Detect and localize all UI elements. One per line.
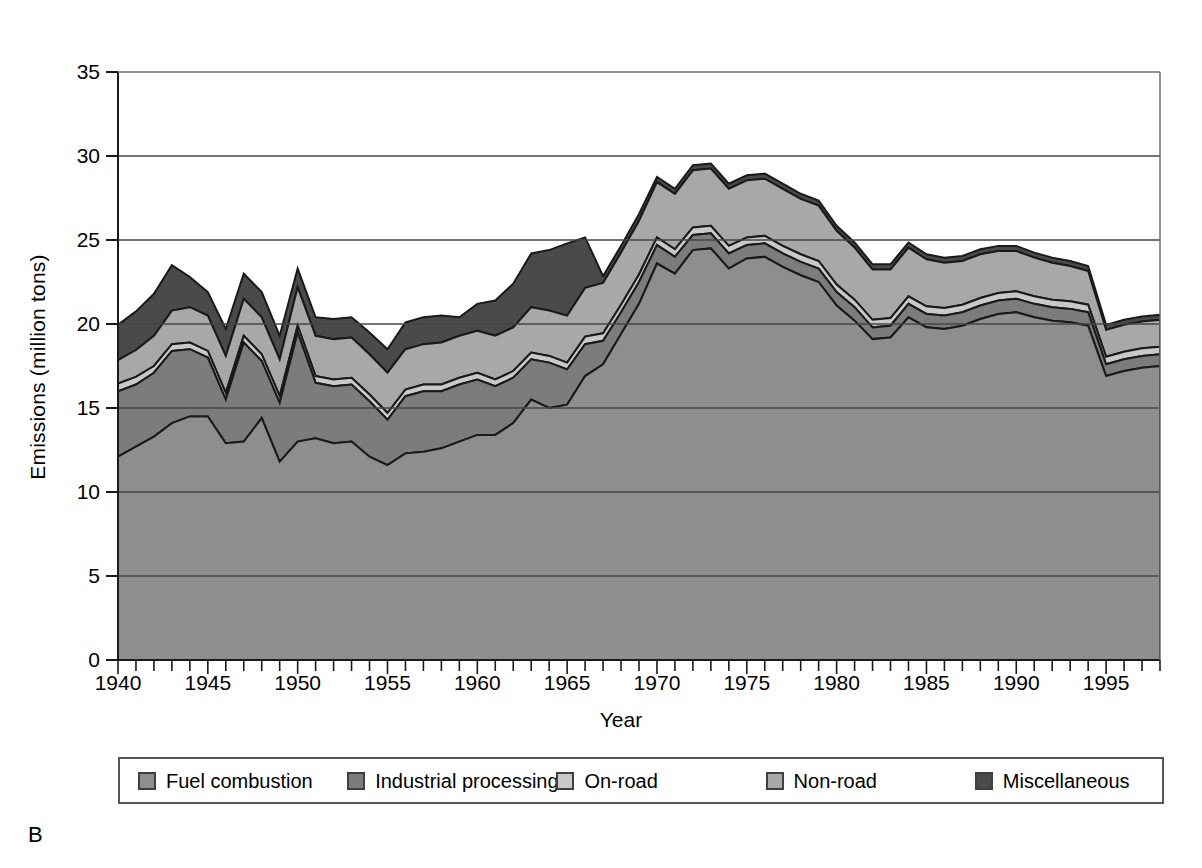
x-axis-tick-label: 1980 [792,672,882,693]
chart-legend: Fuel combustionIndustrial processingOn-r… [118,757,1164,804]
legend-label: Non-road [794,771,877,791]
legend-swatch-icon [138,772,156,790]
y-axis-tick-label: 0 [46,649,100,670]
legend-swatch-icon [556,772,574,790]
y-axis-ticks [106,72,118,660]
legend-item[interactable]: Miscellaneous [975,771,1130,791]
legend-item[interactable]: Fuel combustion [138,771,313,791]
chart-area: 05101520253035 1940194519501955196019651… [0,0,1202,720]
legend-label: Miscellaneous [1003,771,1130,791]
x-axis-tick-label: 1960 [432,672,522,693]
x-axis-tick-label: 1945 [163,672,253,693]
x-axis-tick-label: 1940 [73,672,163,693]
figure-panel-b: 05101520253035 1940194519501955196019651… [0,0,1202,868]
y-axis-tick-label: 10 [46,481,100,502]
legend-item[interactable]: On-road [556,771,657,791]
x-axis-tick-label: 1950 [253,672,343,693]
legend-item[interactable]: Non-road [766,771,877,791]
x-axis-tick-label: 1995 [1061,672,1151,693]
stacked-area-chart [0,0,1202,720]
y-axis-tick-label: 25 [46,229,100,250]
x-axis-tick-label: 1985 [881,672,971,693]
panel-letter: B [28,824,43,846]
y-axis-tick-label: 35 [46,61,100,82]
legend-label: Fuel combustion [166,771,313,791]
x-axis-tick-label: 1965 [522,672,612,693]
legend-swatch-icon [975,772,993,790]
y-axis-tick-label: 20 [46,313,100,334]
x-axis-tick-label: 1955 [342,672,432,693]
y-axis-title: Emissions (million tons) [26,107,50,627]
y-axis-tick-label: 15 [46,397,100,418]
x-axis-tick-label: 1990 [971,672,1061,693]
x-axis-title-text: Year [600,708,642,732]
x-axis-tick-label: 1975 [702,672,792,693]
legend-swatch-icon [766,772,784,790]
legend-label: On-road [584,771,657,791]
x-axis-tick-label: 1970 [612,672,702,693]
y-axis-tick-label: 5 [46,565,100,586]
legend-label: Industrial processing [375,771,558,791]
legend-item[interactable]: Industrial processing [347,771,558,791]
x-axis-tick-labels: 1940194519501955196019651970197519801985… [0,672,1202,702]
x-axis-title: Year [0,708,1202,732]
y-axis-tick-label: 30 [46,145,100,166]
legend-swatch-icon [347,772,365,790]
